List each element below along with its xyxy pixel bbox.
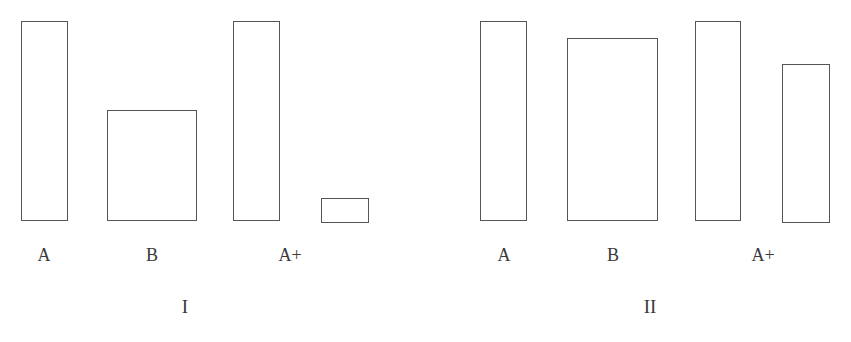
- panel-label: II: [644, 297, 657, 316]
- bar-unlabeled: [782, 64, 830, 223]
- category-label: B: [607, 246, 619, 264]
- bar-b: [107, 110, 197, 221]
- category-label: A: [498, 246, 511, 264]
- bar-a: [21, 21, 68, 221]
- panel-label: I: [182, 297, 188, 316]
- category-label: A: [38, 246, 51, 264]
- bar-a-plus: [233, 21, 280, 221]
- bar-a-plus: [695, 21, 741, 221]
- category-label: A+: [751, 246, 774, 264]
- bar-b: [567, 38, 658, 221]
- category-label: A+: [278, 246, 301, 264]
- category-label: B: [146, 246, 158, 264]
- bar-unlabeled: [321, 198, 369, 223]
- bar-a: [480, 21, 527, 221]
